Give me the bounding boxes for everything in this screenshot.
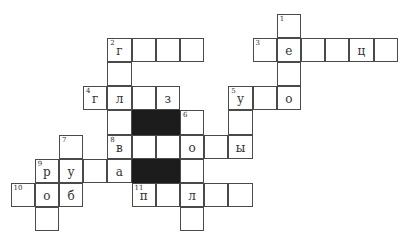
crossword-cell[interactable]: у [59,159,83,183]
cell-letter: ы [229,140,251,156]
clue-number: 7 [62,136,66,144]
crossword-black-cell [132,110,156,134]
crossword-cell[interactable]: 1 [277,14,301,38]
cell-letter: в [108,140,130,156]
crossword-cell[interactable]: 7 [59,135,83,159]
crossword-cell[interactable] [107,62,131,86]
crossword-cell[interactable]: 5у [228,86,252,110]
crossword-cell[interactable] [132,38,156,62]
crossword-cell[interactable] [132,86,156,110]
crossword-cell[interactable] [83,159,107,183]
cell-letter: б [60,188,82,204]
cell-letter: е [278,43,300,59]
crossword-cell[interactable] [277,62,301,86]
cell-letter: у [229,91,251,107]
crossword-cell[interactable]: л [107,86,131,110]
crossword-cell[interactable]: 10 [11,183,35,207]
crossword-cell[interactable]: л [180,183,204,207]
crossword-cell[interactable] [180,159,204,183]
cell-letter: з [157,91,179,107]
crossword-cell[interactable] [228,110,252,134]
cell-letter: г [108,43,130,59]
cell-letter: о [278,91,300,107]
crossword-cell[interactable]: ы [228,135,252,159]
cell-letter: п [133,188,155,204]
crossword-cell[interactable]: о [180,135,204,159]
crossword-cell[interactable] [253,86,277,110]
crossword-black-cell [156,159,180,183]
crossword-cell[interactable]: 4г [83,86,107,110]
crossword-cell[interactable] [35,207,59,231]
crossword-cell[interactable] [180,38,204,62]
cell-letter: о [181,140,203,156]
crossword-cell[interactable]: о [35,183,59,207]
cell-letter: о [36,188,58,204]
cell-letter: л [108,91,130,107]
crossword-cell[interactable] [132,135,156,159]
crossword-cell[interactable]: 9р [35,159,59,183]
crossword-cell[interactable]: 6 [180,110,204,134]
cell-letter: г [84,91,106,107]
crossword-cell[interactable] [325,38,349,62]
cell-letter: у [60,164,82,180]
clue-number: 10 [14,184,23,192]
crossword-cell[interactable]: е [277,38,301,62]
clue-number: 3 [256,39,260,47]
crossword-cell[interactable]: 8в [107,135,131,159]
crossword-cell[interactable]: з [156,86,180,110]
crossword-black-cell [132,159,156,183]
crossword-cell[interactable]: а [107,159,131,183]
cell-letter: р [36,164,58,180]
crossword-cell[interactable] [374,38,398,62]
cell-letter: л [181,188,203,204]
crossword-cell[interactable] [156,38,180,62]
crossword-cell[interactable]: 11п [132,183,156,207]
crossword-black-cell [156,110,180,134]
crossword-cell[interactable]: 3 [253,38,277,62]
crossword-cell[interactable]: о [277,86,301,110]
clue-number: 1 [280,15,284,23]
cell-letter: ц [350,43,372,59]
crossword-cell[interactable] [204,135,228,159]
clue-number: 6 [183,111,187,119]
crossword-cell[interactable] [301,38,325,62]
crossword-cell[interactable] [204,183,228,207]
crossword-cell[interactable] [156,183,180,207]
crossword-cell[interactable]: 2г [107,38,131,62]
crossword-cell[interactable] [180,207,204,231]
crossword-cell[interactable] [156,135,180,159]
crossword-cell[interactable] [228,183,252,207]
crossword-cell[interactable]: б [59,183,83,207]
cell-letter: а [108,164,130,180]
crossword-cell[interactable]: ц [349,38,373,62]
crossword-cell[interactable] [107,110,131,134]
crossword-grid: 12г3ец4глз5уо678воы9руа10об11пл [0,0,405,247]
